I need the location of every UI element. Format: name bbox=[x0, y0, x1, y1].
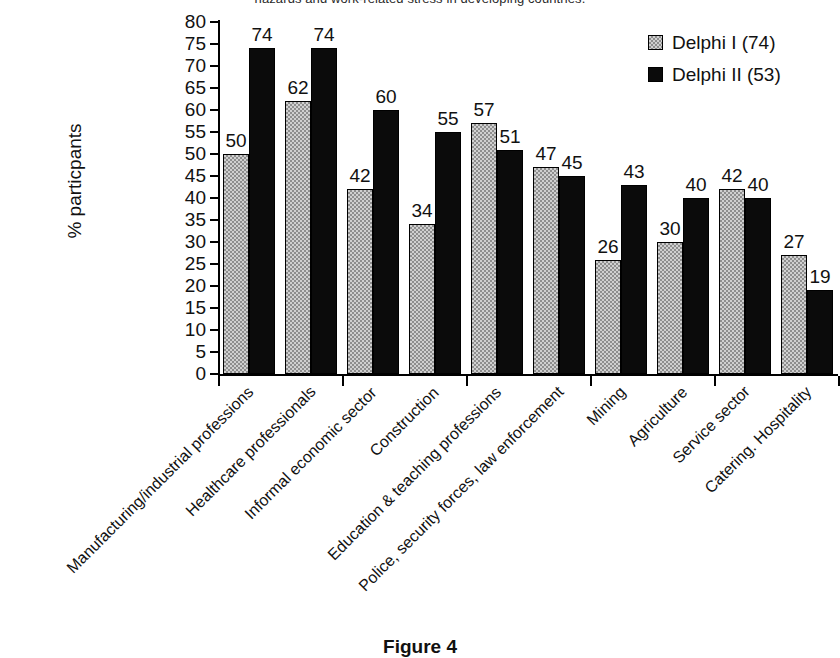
y-axis-tick bbox=[210, 65, 218, 67]
y-axis-tick bbox=[210, 241, 218, 243]
y-axis-tick-label: 30 bbox=[162, 232, 206, 251]
y-axis-tick bbox=[210, 153, 218, 155]
legend-item-delphi-2: Delphi II (53) bbox=[648, 58, 838, 90]
bar-delphi-2 bbox=[745, 198, 771, 374]
bar-delphi-2 bbox=[249, 48, 275, 374]
y-axis-tick bbox=[210, 175, 218, 177]
bar-delphi-1 bbox=[223, 154, 249, 374]
figure-caption: Figure 4 bbox=[0, 636, 840, 658]
bar-value-label: 27 bbox=[774, 232, 814, 251]
bar-delphi-2 bbox=[559, 176, 585, 374]
y-axis-tick-label: 80 bbox=[162, 12, 206, 31]
y-axis-tick-label: 45 bbox=[162, 166, 206, 185]
bar-delphi-2 bbox=[683, 198, 709, 374]
bar-delphi-2 bbox=[311, 48, 337, 374]
bar-delphi-1 bbox=[595, 260, 621, 374]
bar-delphi-1 bbox=[347, 189, 373, 374]
legend-label-delphi-1: Delphi I (74) bbox=[672, 33, 776, 52]
y-axis-tick bbox=[210, 197, 218, 199]
y-axis-tick-label: 55 bbox=[162, 122, 206, 141]
bar-value-label: 57 bbox=[464, 100, 504, 119]
bar-delphi-1 bbox=[719, 189, 745, 374]
y-axis-tick-label: 20 bbox=[162, 276, 206, 295]
y-axis-tick-label: 75 bbox=[162, 34, 206, 53]
bar-value-label: 51 bbox=[490, 127, 530, 146]
bar-delphi-2 bbox=[373, 110, 399, 374]
y-axis-title: % particpants bbox=[64, 101, 86, 261]
x-axis-label: Informal economic sector bbox=[242, 384, 380, 522]
bar-value-label: 40 bbox=[676, 175, 716, 194]
bar-value-label: 74 bbox=[242, 25, 282, 44]
legend-item-delphi-1: Delphi I (74) bbox=[648, 26, 838, 58]
y-axis-tick-label: 10 bbox=[162, 320, 206, 339]
y-axis-tick-label: 50 bbox=[162, 144, 206, 163]
bar-delphi-1 bbox=[409, 224, 435, 374]
x-axis-label: Agriculture bbox=[625, 384, 690, 449]
bar-value-label: 74 bbox=[304, 25, 344, 44]
chart-legend: Delphi I (74) Delphi II (53) bbox=[648, 26, 838, 90]
y-axis-tick-label: 70 bbox=[162, 56, 206, 75]
top-running-caption: hazards and work-related stress in devel… bbox=[0, 0, 840, 6]
bar-delphi-2 bbox=[807, 290, 833, 374]
y-axis-tick bbox=[210, 87, 218, 89]
bar-delphi-1 bbox=[471, 123, 497, 374]
y-axis-tick-label: 25 bbox=[162, 254, 206, 273]
bar-delphi-1 bbox=[657, 242, 683, 374]
y-axis-tick bbox=[210, 109, 218, 111]
bar-value-label: 40 bbox=[738, 175, 778, 194]
y-axis-tick bbox=[210, 329, 218, 331]
y-axis-tick-label: 5 bbox=[162, 342, 206, 361]
x-axis-label: Catering. Hospitality bbox=[702, 384, 815, 497]
y-axis-tick bbox=[210, 21, 218, 23]
bar-delphi-1 bbox=[285, 101, 311, 374]
y-axis-tick bbox=[210, 285, 218, 287]
legend-swatch-icon-delphi-1 bbox=[648, 35, 663, 50]
bar-value-label: 55 bbox=[428, 109, 468, 128]
bar-delphi-1 bbox=[533, 167, 559, 374]
y-axis-tick-label: 60 bbox=[162, 100, 206, 119]
y-axis-tick-label: 40 bbox=[162, 188, 206, 207]
x-axis-category-labels: Manufacturing/industrial professionsHeal… bbox=[0, 374, 840, 624]
y-axis-tick-label: 65 bbox=[162, 78, 206, 97]
y-axis-tick-label: 35 bbox=[162, 210, 206, 229]
bar-delphi-2 bbox=[497, 150, 523, 374]
legend-swatch-icon-delphi-2 bbox=[648, 67, 663, 82]
bar-value-label: 43 bbox=[614, 162, 654, 181]
y-axis-tick bbox=[210, 43, 218, 45]
y-axis-tick bbox=[210, 263, 218, 265]
y-axis-tick bbox=[210, 307, 218, 309]
bar-value-label: 60 bbox=[366, 87, 406, 106]
x-axis-label: Mining bbox=[584, 384, 629, 429]
y-axis-tick-label: 15 bbox=[162, 298, 206, 317]
bar-delphi-2 bbox=[621, 185, 647, 374]
bar-value-label: 19 bbox=[800, 267, 840, 286]
y-axis-tick-labels: 05101520253035404550556065707580 bbox=[156, 0, 206, 400]
y-axis-tick bbox=[210, 219, 218, 221]
y-axis-tick bbox=[210, 351, 218, 353]
legend-label-delphi-2: Delphi II (53) bbox=[672, 65, 781, 84]
bar-value-label: 45 bbox=[552, 153, 592, 172]
bar-delphi-2 bbox=[435, 132, 461, 374]
